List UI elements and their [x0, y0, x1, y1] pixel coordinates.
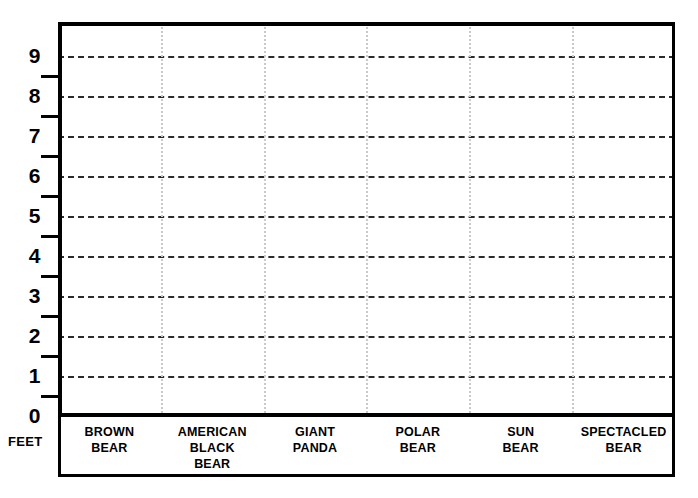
y-axis-unit-label: FEET [8, 434, 42, 449]
category-label-sun-bear: SUN BEAR [503, 424, 539, 456]
minor-tick-0-5 [41, 395, 58, 398]
category-label-spectacled-bear: SPECTACLED BEAR [581, 424, 667, 456]
category-cell-polar-bear: POLAR BEAR [366, 419, 469, 477]
y-axis-tick-label-6: 6 [14, 165, 40, 186]
minor-tick-1-5 [41, 355, 58, 358]
y-axis-tick-label-1: 1 [14, 365, 40, 386]
category-label-american-black-bear: AMERICAN BLACK BEAR [178, 424, 247, 472]
category-cell-sun-bear: SUN BEAR [469, 419, 572, 477]
y-axis-tick-label-5: 5 [14, 205, 40, 226]
category-label-brown-bear: BROWN BEAR [85, 424, 135, 456]
category-cell-giant-panda: GIANT PANDA [264, 419, 367, 477]
category-cell-american-black-bear: AMERICAN BLACK BEAR [161, 419, 264, 477]
category-label-giant-panda: GIANT PANDA [293, 424, 338, 456]
minor-tick-5-5 [41, 195, 58, 198]
minor-tick-3-5 [41, 275, 58, 278]
minor-tick-6-5 [41, 155, 58, 158]
y-axis-tick-label-4: 4 [14, 245, 40, 266]
minor-tick-2-5 [41, 315, 58, 318]
bar-chart: 9 8 7 6 5 4 3 2 1 0 BROWN BEAR AMERICAN … [0, 0, 698, 498]
y-axis-tick-label-3: 3 [14, 285, 40, 306]
category-cell-spectacled-bear: SPECTACLED BEAR [572, 419, 675, 477]
y-axis-tick-label-9: 9 [14, 45, 40, 66]
y-axis-tick-label-8: 8 [14, 85, 40, 106]
category-label-polar-bear: POLAR BEAR [396, 424, 441, 456]
y-axis-tick-label-7: 7 [14, 125, 40, 146]
minor-tick-4-5 [41, 235, 58, 238]
y-axis-tick-label-2: 2 [14, 325, 40, 346]
plot-area [58, 22, 675, 417]
category-cell-brown-bear: BROWN BEAR [58, 419, 161, 477]
minor-tick-8-5 [41, 75, 58, 78]
minor-tick-7-5 [41, 115, 58, 118]
y-axis-tick-label-0: 0 [14, 405, 40, 426]
category-label-row: BROWN BEAR AMERICAN BLACK BEAR GIANT PAN… [58, 419, 675, 477]
